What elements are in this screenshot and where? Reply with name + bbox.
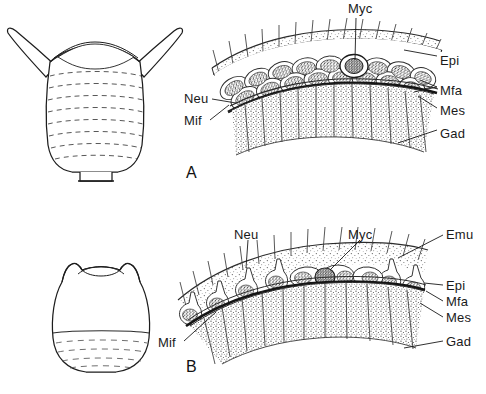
label-gad-a: Gad <box>440 127 465 140</box>
organism-sketch-b <box>52 263 149 372</box>
label-mfa-a: Mfa <box>440 84 462 97</box>
label-gad-b: Gad <box>446 335 471 348</box>
label-epi-b: Epi <box>446 279 465 292</box>
label-myc-b: Myc <box>348 228 372 241</box>
label-mif-a: Mif <box>184 114 202 127</box>
label-emu-b: Emu <box>446 228 473 241</box>
panel-a <box>7 18 460 181</box>
panel-letter-a: A <box>186 165 197 181</box>
label-mfa-b: Mfa <box>446 295 468 308</box>
myocyte-cell-a <box>340 54 369 78</box>
label-neu-a: Neu <box>184 92 208 105</box>
figure-canvas <box>0 0 486 394</box>
label-epi-a: Epi <box>440 54 459 67</box>
panel-b <box>52 227 443 373</box>
label-myc-a: Myc <box>348 2 372 15</box>
label-neu-b: Neu <box>234 228 258 241</box>
label-mif-b: Mif <box>158 336 176 349</box>
label-mes-b: Mes <box>446 311 471 324</box>
tissue-section-a <box>200 18 460 168</box>
histology-figure: Myc Epi Mfa Mes Gad Neu Mif Neu Myc Emu … <box>0 0 486 394</box>
organism-sketch-a <box>7 28 182 181</box>
panel-letter-b: B <box>186 359 197 375</box>
tissue-section-b <box>170 227 440 373</box>
label-mes-a: Mes <box>440 104 465 117</box>
